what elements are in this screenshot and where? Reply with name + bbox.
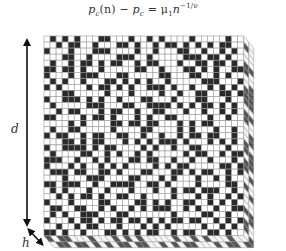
occupied-site <box>159 72 165 78</box>
empty-site <box>219 145 225 151</box>
occupied-site <box>80 66 86 72</box>
empty-site <box>129 42 135 48</box>
occupied-site <box>98 205 104 211</box>
occupied-site <box>195 145 201 151</box>
empty-site <box>159 163 165 169</box>
occupied-site <box>117 133 123 139</box>
occupied-site <box>153 230 159 236</box>
empty-site <box>80 109 86 115</box>
occupied-site <box>50 60 56 66</box>
occupied-site <box>171 42 177 48</box>
occupied-site <box>80 133 86 139</box>
empty-site <box>141 42 147 48</box>
occupied-site <box>195 60 201 66</box>
empty-site <box>141 151 147 157</box>
empty-site <box>177 72 183 78</box>
empty-site <box>165 211 171 217</box>
empty-site <box>135 211 141 217</box>
occupied-site <box>147 36 153 42</box>
empty-site <box>207 36 213 42</box>
occupied-site <box>117 109 123 115</box>
occupied-site <box>92 42 98 48</box>
empty-site <box>147 42 153 48</box>
occupied-site <box>92 72 98 78</box>
empty-site <box>201 205 207 211</box>
occupied-site <box>189 145 195 151</box>
empty-site <box>207 66 213 72</box>
occupied-site <box>177 103 183 109</box>
empty-site <box>226 199 232 205</box>
empty-site <box>50 48 56 54</box>
empty-site <box>80 224 86 230</box>
empty-site <box>98 224 104 230</box>
occupied-site <box>141 193 147 199</box>
empty-site <box>92 36 98 42</box>
empty-site <box>129 193 135 199</box>
empty-site <box>68 175 74 181</box>
occupied-site <box>74 169 80 175</box>
occupied-site <box>189 121 195 127</box>
occupied-site <box>50 115 56 121</box>
empty-site <box>238 60 244 66</box>
empty-site <box>219 175 225 181</box>
occupied-site <box>68 121 74 127</box>
occupied-site <box>105 90 111 96</box>
empty-site <box>123 84 129 90</box>
occupied-site <box>80 205 86 211</box>
empty-site <box>86 181 92 187</box>
empty-site <box>171 205 177 211</box>
empty-site <box>238 224 244 230</box>
occupied-site <box>111 218 117 224</box>
empty-site <box>129 224 135 230</box>
occupied-site <box>153 145 159 151</box>
empty-site <box>56 60 62 66</box>
occupied-site <box>207 139 213 145</box>
empty-site <box>105 175 111 181</box>
empty-site <box>92 109 98 115</box>
occupied-site <box>117 42 123 48</box>
empty-site <box>105 163 111 169</box>
empty-site <box>141 157 147 163</box>
empty-site <box>105 60 111 66</box>
empty-site <box>147 163 153 169</box>
empty-site <box>117 187 123 193</box>
empty-site <box>129 72 135 78</box>
empty-site <box>207 72 213 78</box>
empty-site <box>177 193 183 199</box>
empty-site <box>232 90 238 96</box>
occupied-site <box>111 121 117 127</box>
empty-site <box>232 72 238 78</box>
occupied-site <box>189 127 195 133</box>
occupied-site <box>195 175 201 181</box>
empty-site <box>92 78 98 84</box>
empty-site <box>207 224 213 230</box>
occupied-site <box>86 54 92 60</box>
empty-site <box>105 181 111 187</box>
occupied-site <box>86 72 92 78</box>
empty-site <box>232 169 238 175</box>
empty-site <box>86 157 92 163</box>
empty-site <box>165 187 171 193</box>
occupied-site <box>123 133 129 139</box>
empty-site <box>159 151 165 157</box>
empty-site <box>74 103 80 109</box>
empty-site <box>117 163 123 169</box>
empty-site <box>141 218 147 224</box>
occupied-site <box>195 72 201 78</box>
occupied-site <box>98 133 104 139</box>
empty-site <box>183 127 189 133</box>
empty-site <box>74 72 80 78</box>
occupied-site <box>207 121 213 127</box>
empty-site <box>86 145 92 151</box>
empty-site <box>207 60 213 66</box>
empty-site <box>86 42 92 48</box>
empty-site <box>50 97 56 103</box>
occupied-site <box>74 181 80 187</box>
empty-site <box>68 151 74 157</box>
occupied-site <box>86 84 92 90</box>
empty-site <box>135 133 141 139</box>
occupied-site <box>171 157 177 163</box>
occupied-site <box>98 97 104 103</box>
occupied-site <box>165 199 171 205</box>
empty-site <box>111 97 117 103</box>
